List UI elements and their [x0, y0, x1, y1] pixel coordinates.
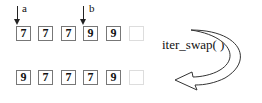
curved-arrow-icon	[0, 0, 262, 103]
